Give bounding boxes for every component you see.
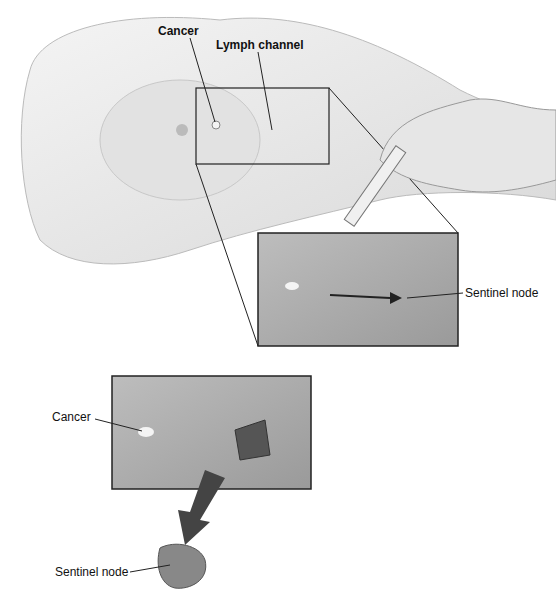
label-sentinel-node-inset: Sentinel node [465, 286, 538, 300]
label-lymph-channel: Lymph channel [216, 38, 304, 52]
inset-injection [258, 233, 458, 346]
breast-shape [100, 80, 260, 200]
label-cancer-top: Cancer [158, 24, 199, 38]
label-cancer-bottom: Cancer [52, 410, 91, 424]
label-sentinel-node-removed: Sentinel node [55, 565, 128, 579]
